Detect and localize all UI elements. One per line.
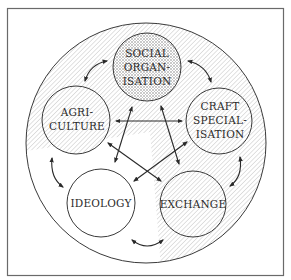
- node-label-line: SPECIAL-: [193, 114, 247, 126]
- node-label-line: CULTURE: [49, 120, 105, 132]
- node-social-organisation: SOCIAL ORGAN- ISATION: [113, 33, 181, 101]
- node-label-line: CRAFT: [201, 100, 240, 112]
- node-label-line: SOCIAL: [125, 47, 169, 59]
- node-label-line: IDEOLOGY: [70, 197, 132, 209]
- svg-text:ISATION: ISATION: [196, 128, 245, 140]
- svg-text:EXCHANGE: EXCHANGE: [160, 198, 227, 210]
- node-ideology: IDEOLOGY: [67, 169, 135, 237]
- node-agriculture: AGRI- CULTURE: [42, 86, 110, 154]
- svg-text:AGRI-: AGRI-: [60, 106, 94, 118]
- node-craft-specialisation: CRAFT SPECIAL- ISATION: [186, 88, 252, 154]
- svg-text:CRAFT: CRAFT: [201, 100, 240, 112]
- svg-text:ISATION: ISATION: [123, 75, 172, 87]
- svg-text:ORGAN-: ORGAN-: [124, 61, 171, 73]
- svg-text:IDEOLOGY: IDEOLOGY: [70, 197, 132, 209]
- interaction-diagram: SOCIAL ORGAN- ISATION AGRI- CULTURE CRAF…: [0, 0, 291, 280]
- svg-text:SOCIAL: SOCIAL: [125, 47, 169, 59]
- svg-text:CULTURE: CULTURE: [49, 120, 105, 132]
- node-label-line: ISATION: [196, 128, 245, 140]
- node-label-line: ORGAN-: [124, 61, 171, 73]
- node-label-line: AGRI-: [60, 106, 94, 118]
- node-label-line: ISATION: [123, 75, 172, 87]
- node-label-line: EXCHANGE: [160, 198, 227, 210]
- node-exchange: EXCHANGE: [160, 171, 227, 237]
- svg-text:SPECIAL-: SPECIAL-: [193, 114, 247, 126]
